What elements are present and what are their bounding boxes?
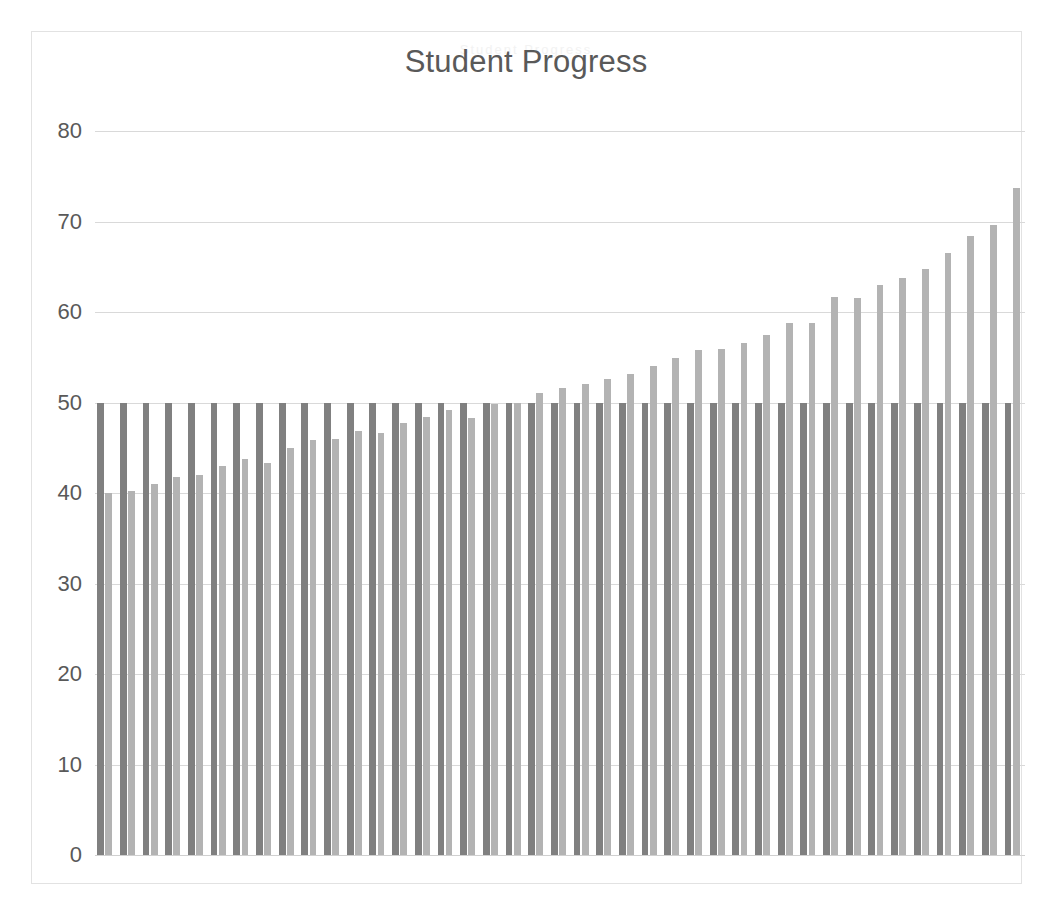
bar-baseline: [642, 403, 649, 856]
bar-baseline: [483, 403, 490, 856]
bar-progress: [763, 335, 770, 855]
bar-group: [959, 131, 974, 855]
bar-baseline: [279, 403, 286, 856]
bar-baseline: [574, 403, 581, 856]
bar-group: [596, 131, 611, 855]
bar-group: [415, 131, 430, 855]
bar-progress: [831, 297, 838, 855]
bar-group: [256, 131, 271, 855]
y-tick-label-0: 0: [34, 844, 82, 866]
bar-group: [347, 131, 362, 855]
bar-baseline: [120, 403, 127, 856]
bar-group: [687, 131, 702, 855]
bar-group: [823, 131, 838, 855]
bar-baseline: [165, 403, 172, 856]
bar-progress: [899, 278, 906, 855]
bar-progress: [446, 410, 453, 855]
chart-page: Student Progress Student Progress 010203…: [0, 0, 1052, 915]
bar-group: [301, 131, 316, 855]
bar-baseline: [415, 403, 422, 856]
bar-progress: [536, 393, 543, 855]
bar-group: [279, 131, 294, 855]
bar-progress: [1013, 188, 1020, 855]
gridline-0: [95, 855, 1025, 856]
bar-progress: [105, 493, 112, 855]
bar-progress: [310, 440, 317, 855]
bar-baseline: [755, 403, 762, 856]
bar-baseline: [823, 403, 830, 856]
bar-progress: [514, 403, 521, 856]
bar-progress: [786, 323, 793, 855]
bar-group: [982, 131, 997, 855]
bar-group: [165, 131, 180, 855]
bar-baseline: [1005, 403, 1012, 856]
y-tick-label-10: 10: [34, 754, 82, 776]
bar-progress: [355, 431, 362, 855]
bar-progress: [922, 269, 929, 855]
bar-group: [914, 131, 929, 855]
bar-group: [664, 131, 679, 855]
bar-progress: [990, 225, 997, 855]
bar-baseline: [324, 403, 331, 856]
bar-baseline: [710, 403, 717, 856]
bar-group: [642, 131, 657, 855]
bar-baseline: [800, 403, 807, 856]
bar-progress: [242, 459, 249, 855]
bar-progress: [287, 448, 294, 855]
chart-title: Student Progress: [0, 44, 1052, 80]
bar-baseline: [959, 403, 966, 856]
bar-baseline: [596, 403, 603, 856]
bar-baseline: [97, 403, 104, 856]
y-tick-label-80: 80: [34, 120, 82, 142]
bar-baseline: [211, 403, 218, 856]
bar-group: [868, 131, 883, 855]
bar-baseline: [551, 403, 558, 856]
bar-baseline: [846, 403, 853, 856]
bar-baseline: [233, 403, 240, 856]
y-tick-label-20: 20: [34, 663, 82, 685]
bar-baseline: [506, 403, 513, 856]
bar-progress: [604, 379, 611, 855]
bar-group: [438, 131, 453, 855]
bar-group: [233, 131, 248, 855]
bar-baseline: [982, 403, 989, 856]
bar-group: [506, 131, 521, 855]
bar-group: [392, 131, 407, 855]
bar-baseline: [143, 403, 150, 856]
bar-baseline: [891, 403, 898, 856]
bar-progress: [173, 477, 180, 855]
bar-progress: [854, 298, 861, 855]
bar-baseline: [732, 403, 739, 856]
bar-baseline: [438, 403, 445, 856]
bar-progress: [945, 253, 952, 855]
bar-group: [937, 131, 952, 855]
bar-group: [97, 131, 112, 855]
bar-baseline: [347, 403, 354, 856]
bar-baseline: [528, 403, 535, 856]
bar-baseline: [778, 403, 785, 856]
bar-progress: [672, 358, 679, 855]
bar-baseline: [937, 403, 944, 856]
y-tick-label-40: 40: [34, 482, 82, 504]
bar-progress: [219, 466, 226, 855]
bar-group: [846, 131, 861, 855]
bar-progress: [128, 491, 135, 855]
bar-group: [732, 131, 747, 855]
bar-progress: [423, 417, 430, 855]
bar-progress: [378, 433, 385, 855]
y-axis-tick-labels: 01020304050607080: [34, 131, 82, 855]
bar-progress: [967, 236, 974, 855]
bar-group: [1005, 131, 1020, 855]
bar-group: [143, 131, 158, 855]
bar-progress: [877, 285, 884, 855]
y-tick-label-70: 70: [34, 211, 82, 233]
y-tick-label-50: 50: [34, 392, 82, 414]
bar-baseline: [301, 403, 308, 856]
bar-group: [324, 131, 339, 855]
bar-progress: [650, 366, 657, 855]
bar-baseline: [914, 403, 921, 856]
bar-progress: [809, 323, 816, 855]
bar-baseline: [256, 403, 263, 856]
bar-baseline: [369, 403, 376, 856]
bar-group: [755, 131, 770, 855]
